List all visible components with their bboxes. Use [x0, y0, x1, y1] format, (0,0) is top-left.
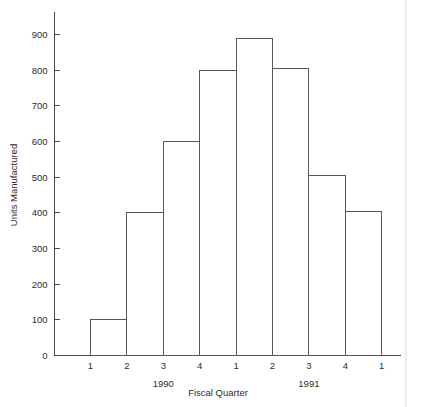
y-axis-tick-label: 400 — [32, 207, 48, 218]
bar — [345, 212, 381, 356]
x-axis-title: Fiscal Quarter — [188, 387, 248, 398]
y-axis-title: Units Manufactured — [8, 144, 19, 226]
x-axis-tick-label: 1 — [379, 360, 384, 371]
bar — [236, 38, 272, 355]
x-axis-tick-label: 1 — [88, 360, 93, 371]
y-axis-ticks: 0100200300400500600700800900 — [32, 29, 60, 361]
x-axis-group-label: 1990 — [153, 378, 174, 389]
y-axis-tick-label: 500 — [32, 172, 48, 183]
y-axis-tick-label: 800 — [32, 65, 48, 76]
bar — [163, 142, 199, 356]
bar — [200, 70, 236, 355]
x-axis-tick-label: 4 — [197, 360, 202, 371]
bar — [91, 320, 127, 356]
chart-figure: 0100200300400500600700800900 123412341 1… — [0, 0, 424, 407]
x-axis-group-label: 1991 — [298, 378, 319, 389]
x-axis-tick-label: 2 — [124, 360, 129, 371]
x-axis-tick-label: 1 — [233, 360, 238, 371]
axes-group — [54, 0, 406, 407]
bar — [127, 213, 163, 356]
bar — [273, 68, 309, 355]
y-axis-tick-label: 100 — [32, 314, 48, 325]
x-axis-tick-label: 2 — [270, 360, 275, 371]
y-axis-tick-label: 600 — [32, 136, 48, 147]
bar — [309, 175, 345, 355]
y-axis-tick-label: 200 — [32, 279, 48, 290]
y-axis-tick-label: 0 — [42, 350, 47, 361]
y-axis-tick-label: 900 — [32, 29, 48, 40]
bar-chart-plot: 0100200300400500600700800900 123412341 1… — [0, 0, 424, 407]
bars-group — [91, 38, 382, 355]
x-axis-tick-label: 3 — [161, 360, 166, 371]
y-axis-tick-label: 300 — [32, 243, 48, 254]
x-axis-tick-label: 4 — [343, 360, 348, 371]
x-axis-tick-label: 3 — [306, 360, 311, 371]
y-axis-tick-label: 700 — [32, 100, 48, 111]
